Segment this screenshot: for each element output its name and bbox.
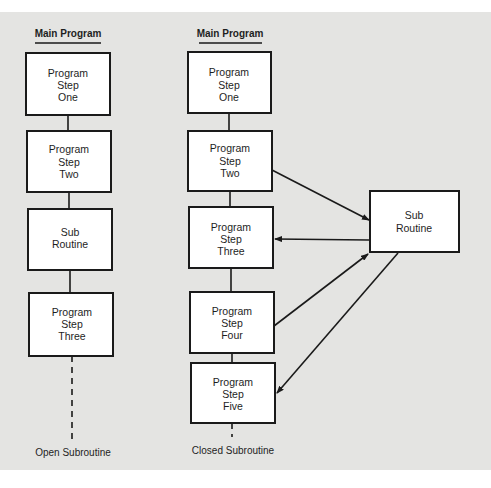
subroutine-diagram: Main Program Program Step One Program St…: [0, 0, 491, 488]
closed-subroutine-diagram: Main Program Program Step One Program St…: [188, 28, 459, 456]
svg-text:Step: Step: [218, 79, 240, 91]
svg-text:Open Subroutine: Open Subroutine: [35, 447, 111, 458]
open-box-step-three: Program Step Three: [29, 293, 113, 356]
closed-box-step-four: Program Step Four: [190, 292, 274, 353]
svg-text:Step: Step: [222, 388, 244, 400]
svg-text:Four: Four: [221, 329, 243, 341]
svg-text:Two: Two: [59, 168, 78, 180]
svg-text:Routine: Routine: [396, 222, 432, 234]
closed-heading: Main Program: [197, 28, 264, 43]
open-box-sub-routine: Sub Routine: [28, 209, 112, 270]
svg-text:Main Program: Main Program: [197, 28, 264, 39]
call-arrow-step-two-to-subroutine: [272, 170, 369, 220]
svg-text:Two: Two: [220, 167, 239, 179]
open-heading: Main Program: [35, 28, 102, 43]
svg-text:Program: Program: [52, 306, 93, 318]
closed-box-step-three: Program Step Three: [189, 207, 273, 268]
svg-text:Three: Three: [217, 245, 245, 257]
svg-text:One: One: [58, 91, 78, 103]
return-arrow-subroutine-to-step-five: [277, 253, 398, 393]
svg-text:Program: Program: [212, 305, 253, 317]
closed-subroutine-caption: Closed Subroutine: [192, 445, 275, 456]
cut-off-figure-caption: [0, 476, 491, 488]
return-arrow-subroutine-to-step-three: [275, 239, 369, 240]
svg-text:Five: Five: [223, 400, 243, 412]
svg-text:One: One: [219, 91, 239, 103]
svg-text:Sub: Sub: [61, 226, 80, 238]
svg-text:Program: Program: [211, 221, 252, 233]
closed-box-step-two: Program Step Two: [188, 131, 272, 191]
open-subroutine-caption: Open Subroutine: [35, 447, 111, 458]
svg-text:Step: Step: [221, 317, 243, 329]
svg-text:Program: Program: [49, 143, 90, 155]
open-subroutine-diagram: Main Program Program Step One Program St…: [26, 28, 113, 458]
open-box-step-one: Program Step One: [26, 53, 110, 115]
call-arrow-step-four-to-subroutine: [274, 254, 368, 326]
svg-text:Step: Step: [61, 318, 83, 330]
closed-box-step-five: Program Step Five: [191, 363, 275, 423]
svg-text:Step: Step: [58, 156, 80, 168]
svg-text:Program: Program: [48, 67, 89, 79]
closed-box-step-one: Program Step One: [188, 52, 271, 113]
svg-text:Program: Program: [210, 142, 251, 154]
open-box-step-two: Program Step Two: [27, 131, 111, 192]
svg-text:Main Program: Main Program: [35, 28, 102, 39]
svg-text:Three: Three: [58, 330, 86, 342]
svg-text:Step: Step: [57, 79, 79, 91]
svg-text:Closed Subroutine: Closed Subroutine: [192, 445, 275, 456]
svg-text:Step: Step: [219, 155, 241, 167]
closed-box-sub-routine: Sub Routine: [370, 191, 459, 252]
svg-text:Program: Program: [209, 66, 250, 78]
svg-text:Step: Step: [220, 233, 242, 245]
svg-text:Program: Program: [213, 376, 254, 388]
svg-text:Routine: Routine: [52, 238, 88, 250]
svg-text:Sub: Sub: [405, 209, 424, 221]
